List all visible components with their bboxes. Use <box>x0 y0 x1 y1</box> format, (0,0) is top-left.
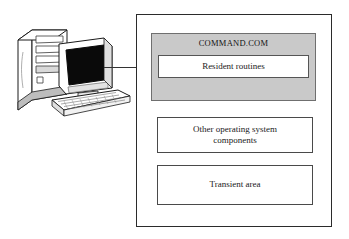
other-os-components-line1: Other operating system <box>193 124 277 134</box>
resident-routines-label: Resident routines <box>202 61 265 72</box>
segment-other-os-components: Other operating system components <box>157 117 313 153</box>
segment-transient-area: Transient area <box>157 165 313 205</box>
desktop-computer-illustration <box>12 22 134 122</box>
other-os-components-label: Other operating system components <box>193 124 277 147</box>
diagram-canvas: COMMAND.COM Resident routines Other oper… <box>0 0 349 239</box>
computer-svg <box>12 22 134 122</box>
crt-monitor <box>59 38 112 99</box>
segment-resident-routines: Resident routines <box>158 55 309 78</box>
leader-line <box>104 67 137 68</box>
other-os-components-line2: components <box>213 135 257 145</box>
segment-command-com: COMMAND.COM Resident routines <box>151 33 316 101</box>
transient-area-label: Transient area <box>210 179 261 190</box>
command-com-title: COMMAND.COM <box>152 34 315 49</box>
memory-map: COMMAND.COM Resident routines Other oper… <box>136 14 332 227</box>
